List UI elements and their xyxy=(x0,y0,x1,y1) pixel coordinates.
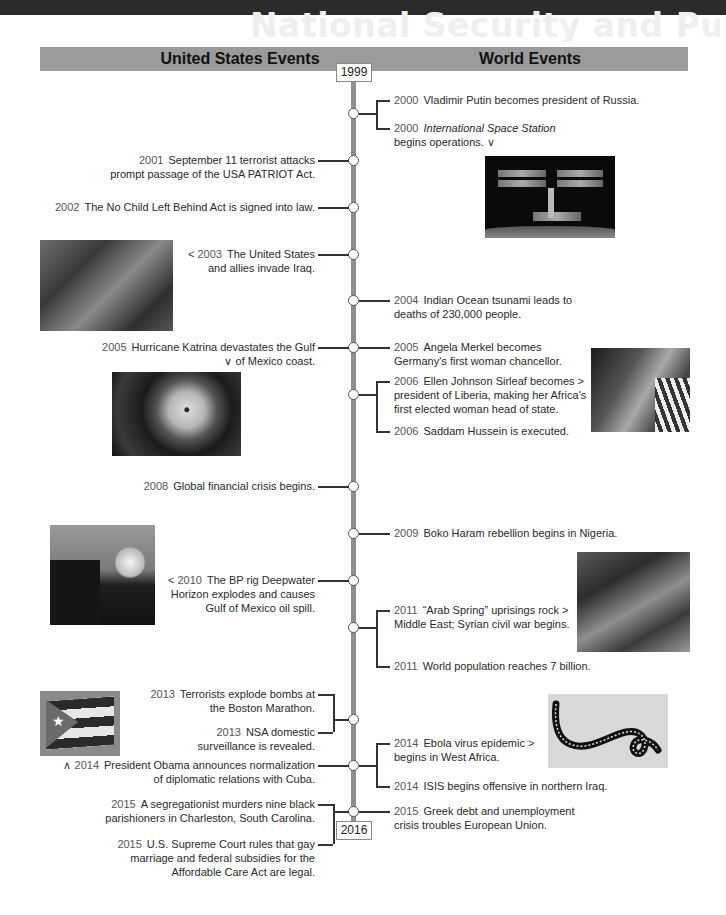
cuba-flag-photo: ★ xyxy=(40,691,120,756)
connector-line xyxy=(318,160,349,162)
timeline-node-2006 xyxy=(348,389,359,400)
world-event-2009: 2009Boko Haram rebellion begins in Niger… xyxy=(394,526,714,540)
world-event-2015-greece: 2015Greek debt and unemployment crisis t… xyxy=(394,804,714,832)
bracket-line xyxy=(376,100,378,128)
connector-line xyxy=(376,100,390,102)
arrow-up-icon: ∧ xyxy=(63,759,71,771)
us-event-2008: 2008Global financial crisis begins. xyxy=(20,479,315,493)
world-event-2000-iss: 2000International Space Station begins o… xyxy=(394,121,714,149)
world-event-2006-saddam: 2006Saddam Hussein is executed. xyxy=(394,424,594,438)
connector-line xyxy=(376,666,390,668)
connector-line xyxy=(318,207,349,209)
timeline-node-2000 xyxy=(348,108,359,119)
arrow-left-icon: < xyxy=(188,248,194,260)
connector-line xyxy=(359,533,390,535)
connector-line xyxy=(333,719,349,721)
katrina-satellite-photo xyxy=(112,372,241,456)
timeline-node-2014 xyxy=(348,760,359,771)
ship-silhouette xyxy=(50,560,100,625)
star-icon: ★ xyxy=(52,714,65,728)
connector-line xyxy=(359,113,376,115)
connector-line xyxy=(318,765,349,767)
timeline-node-2008 xyxy=(348,481,359,492)
connector-line xyxy=(318,254,349,256)
start-year-label: 1999 xyxy=(336,63,372,82)
connector-line xyxy=(318,804,333,806)
arab-spring-photo xyxy=(577,552,690,652)
arrow-down-icon: ∨ xyxy=(487,136,495,148)
solar-panel xyxy=(557,170,603,177)
arrow-down-icon: ∨ xyxy=(224,355,232,367)
world-event-2000-putin: 2000Vladimir Putin becomes president of … xyxy=(394,93,714,107)
deepwater-horizon-photo xyxy=(50,525,155,625)
connector-line xyxy=(359,394,376,396)
timeline-node-2005 xyxy=(348,342,359,353)
fire-plume xyxy=(115,545,145,580)
connector-line xyxy=(318,694,333,696)
world-event-2014-isis: 2014ISIS begins offensive in northern Ir… xyxy=(394,779,714,793)
timeline-node-2015 xyxy=(348,806,359,817)
arrow-left-icon: < xyxy=(168,574,174,586)
world-event-2006-sirleaf: 2006Ellen Johnson Sirleaf becomes > pres… xyxy=(394,374,594,416)
connector-line xyxy=(359,300,390,302)
arrow-right-icon: > xyxy=(528,737,534,749)
us-event-2015-supreme-court: 2015U.S. Supreme Court rules that gay ma… xyxy=(20,837,315,879)
us-event-2005: 2005Hurricane Katrina devastates the Gul… xyxy=(20,340,315,368)
us-event-2014-cuba: ∧ 2014President Obama announces normaliz… xyxy=(20,758,315,786)
earth-horizon xyxy=(485,226,615,238)
timeline-node-2002 xyxy=(348,202,359,213)
us-event-2002: 2002The No Child Left Behind Act is sign… xyxy=(20,200,315,214)
sirleaf-photo xyxy=(591,348,690,432)
bracket-line xyxy=(376,381,378,431)
connector-line xyxy=(376,381,390,383)
connector-line xyxy=(376,786,390,788)
bracket-line xyxy=(333,694,335,732)
liberian-flag xyxy=(655,378,690,432)
world-event-2014-ebola: 2014Ebola virus epidemic > begins in Wes… xyxy=(394,736,544,764)
timeline-node-2004 xyxy=(348,295,359,306)
solar-panel xyxy=(533,212,581,221)
connector-line xyxy=(359,347,390,349)
ebola-virus-photo xyxy=(548,694,668,768)
us-event-2003: < 2003The United States and allies invad… xyxy=(180,247,315,275)
world-events-heading: World Events xyxy=(430,47,630,71)
connector-line xyxy=(333,811,349,813)
connector-line xyxy=(359,811,390,813)
bracket-line xyxy=(376,610,378,666)
connector-line xyxy=(318,486,349,488)
timeline-node-2010 xyxy=(348,575,359,586)
iraq-soldiers-photo xyxy=(40,240,173,331)
timeline-node-2013 xyxy=(348,714,359,725)
world-event-2011-population: 2011World population reaches 7 billion. xyxy=(394,659,714,673)
connector-line xyxy=(376,431,390,433)
connector-line xyxy=(359,627,376,629)
bracket-line xyxy=(333,804,335,844)
us-event-2013-boston: 2013Terrorists explode bombs at the Bost… xyxy=(130,687,315,715)
timeline-axis xyxy=(351,82,356,822)
station-truss xyxy=(548,188,554,218)
bleed-through-title: National Security and Public Safety xyxy=(250,10,720,42)
connector-line xyxy=(376,610,390,612)
end-year-label: 2016 xyxy=(336,821,372,840)
connector-line xyxy=(376,743,390,745)
connector-line xyxy=(359,765,376,767)
connector-line xyxy=(376,128,390,130)
us-event-2013-nsa: 2013NSA domestic surveillance is reveale… xyxy=(130,725,315,753)
solar-panel xyxy=(498,170,546,177)
us-event-2001: 2001September 11 terrorist attacks promp… xyxy=(20,153,315,181)
connector-line xyxy=(318,844,333,846)
solar-panel xyxy=(557,180,603,187)
iss-photo xyxy=(485,156,615,238)
connector-line xyxy=(318,580,349,582)
us-events-heading: United States Events xyxy=(140,47,340,71)
arrow-right-icon: > xyxy=(578,375,584,387)
connector-line xyxy=(318,732,333,734)
world-event-2011-arab-spring: 2011“Arab Spring” uprisings rock > Middl… xyxy=(394,603,579,631)
bracket-line xyxy=(376,743,378,786)
us-event-2010: < 2010The BP rig Deepwater Horizon explo… xyxy=(160,573,315,615)
ebola-filament-icon xyxy=(548,694,668,768)
connector-line xyxy=(318,347,349,349)
timeline-node-2001 xyxy=(348,155,359,166)
arrow-right-icon: > xyxy=(562,604,568,616)
world-event-2005-merkel: 2005Angela Merkel becomes Germany's firs… xyxy=(394,340,594,368)
